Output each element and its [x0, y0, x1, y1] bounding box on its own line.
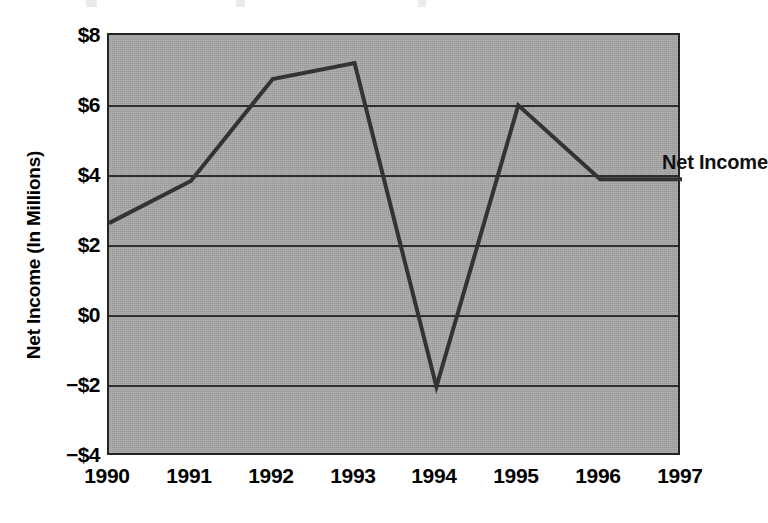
y-tick-label-4: $4 — [36, 163, 100, 187]
series-plot — [109, 35, 682, 457]
scan-artifact — [86, 0, 97, 7]
x-tick-label-1992: 1992 — [230, 464, 312, 488]
x-tick-label-1991: 1991 — [148, 464, 230, 488]
x-tick-label-1995: 1995 — [475, 464, 557, 488]
net-income-series-line — [109, 63, 682, 387]
x-tick-label-1996: 1996 — [557, 464, 639, 488]
y-tick-label-neg2: −$2 — [36, 373, 100, 397]
x-tick-label-1993: 1993 — [312, 464, 394, 488]
x-tick-label-1990: 1990 — [66, 464, 148, 488]
y-tick-label-8: $8 — [36, 23, 100, 47]
x-tick-label-1994: 1994 — [393, 464, 475, 488]
y-tick-label-2: $2 — [36, 233, 100, 257]
series-annotation-label: Net Income — [662, 151, 768, 174]
plot-area: Net Income — [107, 33, 680, 455]
scan-artifact — [418, 0, 426, 7]
y-tick-label-0: $0 — [36, 303, 100, 327]
scan-artifact — [236, 0, 245, 7]
y-tick-label-6: $6 — [36, 93, 100, 117]
x-tick-label-1997: 1997 — [639, 464, 721, 488]
